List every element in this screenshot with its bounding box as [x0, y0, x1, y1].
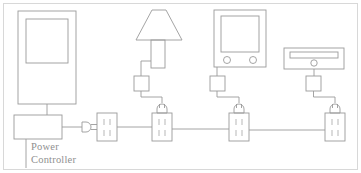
tall-panel-appliance	[18, 11, 76, 104]
panel-inner-screen	[26, 19, 68, 63]
electrical-outlet	[325, 113, 345, 141]
tv-knob-right	[250, 57, 257, 64]
plug-body	[234, 104, 244, 113]
outlet-body	[325, 113, 345, 141]
panel-outer-body	[18, 11, 76, 104]
plug-body	[82, 122, 91, 132]
power-controller-unit	[14, 115, 62, 139]
tv-outer-body	[214, 10, 266, 67]
tv-knob-left	[224, 57, 231, 64]
lamp-cord-upper	[141, 61, 151, 76]
wall-plug-vertical	[157, 104, 167, 113]
power-controller-label-line2: Controller	[31, 154, 76, 165]
power-adapter-brick	[306, 76, 321, 91]
power-controller-label-line1: Power	[31, 141, 59, 152]
tv-cord-lower	[217, 91, 239, 103]
tv-screen	[221, 16, 259, 52]
table-lamp	[136, 10, 182, 68]
power-adapter-brick	[134, 76, 149, 91]
power-controller-body	[14, 115, 62, 139]
lamp-shade	[136, 10, 182, 40]
lamp-stem	[151, 40, 165, 68]
wall-plug-horizontal	[82, 122, 97, 132]
player-disc-slot	[290, 52, 338, 58]
diagram-canvas: Power Controller	[0, 0, 361, 173]
player-cord-lower	[314, 91, 336, 103]
plug-body	[157, 104, 167, 113]
outlet-body	[229, 113, 249, 141]
outlet-body	[97, 113, 117, 141]
electrical-outlet	[152, 113, 172, 141]
electrical-outlet	[97, 113, 117, 141]
lamp-cord-lower	[141, 91, 162, 103]
television-set	[214, 10, 266, 67]
wall-plug-vertical	[234, 104, 244, 113]
power-adapter-brick	[210, 76, 225, 91]
electrical-outlet	[229, 113, 249, 141]
outlet-body	[152, 113, 172, 141]
disc-player-unit	[284, 48, 344, 69]
wall-plug-vertical	[330, 104, 340, 113]
power-controller-diagram: Power Controller	[0, 0, 361, 173]
plug-body	[330, 104, 340, 113]
player-button	[311, 60, 317, 66]
